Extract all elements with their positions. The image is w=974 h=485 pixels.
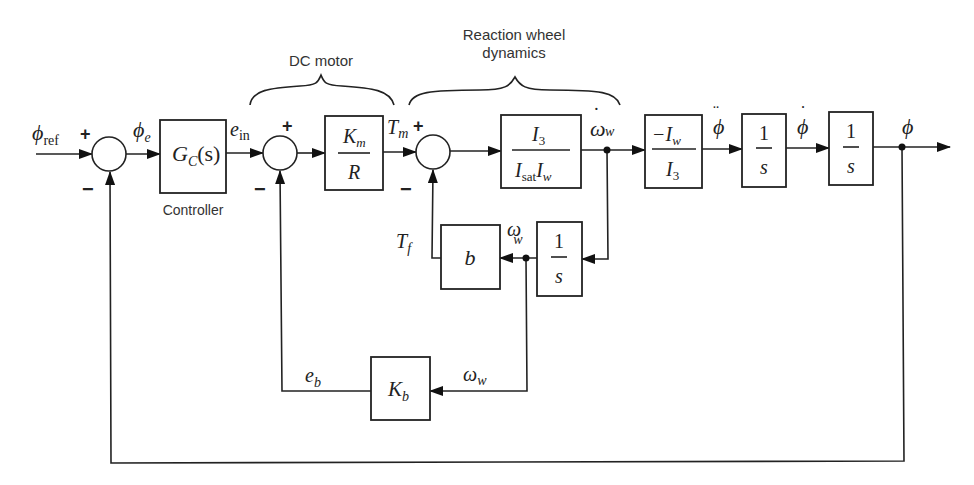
backemf-feedback-path [280, 171, 371, 391]
summing-junction-1 [92, 137, 126, 171]
signal-omega-w-lower: ωw [463, 363, 487, 388]
omega-junction [523, 255, 530, 262]
reaction-wheel-label-line1: Reaction wheel [463, 26, 566, 43]
dc-motor-brace [250, 75, 394, 105]
reaction-wheel-brace [409, 77, 620, 105]
wheel-feedback-path [582, 150, 608, 259]
integrator-1-denominator: s [760, 156, 768, 178]
signal-phi-e: ϕe [133, 117, 151, 145]
omega-dot-junction [604, 147, 611, 154]
signal-e-in: ein [230, 118, 250, 143]
svg-text:w: w [605, 124, 615, 139]
signal-phi-ref: ϕref [32, 120, 59, 148]
sum2-plus-sign: + [282, 116, 293, 136]
signal-phi-dot: ϕ ˙ [797, 103, 808, 139]
integrator-2-denominator: s [847, 155, 855, 177]
summing-junction-2 [263, 136, 297, 170]
signal-phi-ddot: ϕ ¨ [713, 102, 724, 139]
integrator-2-numerator: 1 [846, 120, 856, 142]
sum1-plus-sign: + [80, 124, 91, 144]
sum3-minus-sign: − [400, 178, 412, 200]
sum1-minus-sign: − [82, 178, 94, 200]
signal-omega-w-upper: ωw [507, 218, 523, 247]
wheel-integrator-denominator: s [555, 265, 563, 287]
outer-feedback-path [110, 147, 904, 463]
motor-gain-denominator: R [347, 161, 360, 183]
friction-coefficient: b [465, 245, 476, 270]
reaction-wheel-label-line2: dynamics [482, 44, 545, 61]
wheel-integrator-numerator: 1 [554, 230, 564, 252]
sum2-minus-sign: − [254, 178, 266, 200]
summing-junction-3 [416, 135, 450, 169]
signal-omega-w-dot: ω w ˙ [590, 104, 615, 141]
signal-phi: ϕ [902, 114, 913, 139]
dc-motor-label: DC motor [289, 52, 353, 69]
friction-torque-path [432, 170, 441, 258]
signal-e-b: eb [305, 364, 321, 390]
svg-text:¨: ¨ [713, 102, 719, 122]
svg-text:˙: ˙ [800, 103, 806, 123]
phi-junction [899, 144, 906, 151]
signal-T-f: Tf [396, 230, 413, 256]
svg-text:˙: ˙ [593, 104, 600, 126]
sum3-plus-sign: + [413, 116, 424, 136]
controller-caption: Controller [163, 202, 224, 218]
block-diagram: DC motor Reaction wheel dynamics + − + −… [0, 0, 974, 485]
integrator-1-numerator: 1 [759, 122, 769, 144]
signal-T-m: Tm [387, 116, 408, 141]
